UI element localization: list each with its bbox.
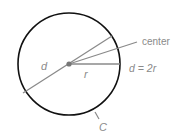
circumference-leader-line	[95, 112, 99, 119]
circle-diagram: center d r d = 2r C	[0, 0, 185, 139]
formula-label: d = 2r	[129, 62, 157, 74]
circumference-label: C	[99, 121, 107, 133]
center-dot	[66, 61, 71, 66]
diameter-label: d	[41, 60, 48, 72]
center-label: center	[142, 36, 170, 47]
center-leader-line	[69, 42, 137, 64]
radius-label: r	[84, 68, 89, 80]
